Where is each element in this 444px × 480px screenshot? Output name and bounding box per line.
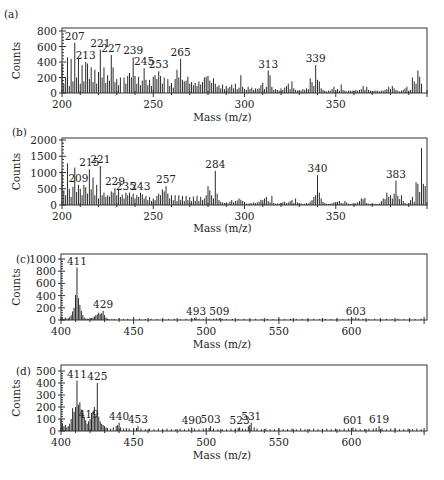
peak-label: 383 [386,168,406,180]
spectrum-panel-b: 2092152212292352432572843403830500100015… [10,126,427,234]
peak-label: 601 [343,414,363,426]
x-tick-label: 200 [52,210,72,222]
peak-label: 339 [306,52,326,64]
y-axis-title: Counts [10,153,22,191]
x-tick-label: 400 [51,325,71,337]
peak-label: 265 [171,46,191,58]
spectrum-panel-c: 4114294935096030200400600800100040045050… [10,253,427,350]
plot-frame [61,254,427,320]
peak-label: 213 [76,49,96,61]
y-tick-label: 200 [37,72,57,84]
x-tick-label: 250 [143,98,163,110]
peak-label: 490 [182,414,202,426]
y-tick-label: 100 [36,413,56,425]
x-tick-label: 600 [341,436,361,448]
spectrum-panel-d: 4114194254404534905035235316016190100200… [10,365,427,461]
y-tick-label: 400 [36,290,56,302]
peak-label: 453 [128,413,148,425]
y-tick-label: 600 [36,277,56,289]
x-axis-title: Mass (m/z) [193,222,251,234]
peak-label: 493 [186,305,206,317]
plot-frame [62,138,427,205]
peak-label: 411 [67,368,87,380]
peak-label: 429 [93,298,113,310]
panel-label: (c) [16,253,30,265]
y-tick-label: 400 [37,56,57,68]
x-tick-label: 500 [196,325,216,337]
peak-label: 221 [90,153,110,165]
x-axis-title: Mass (m/z) [193,111,251,123]
y-tick-label: 2000 [30,134,57,146]
peak-label: 257 [156,173,176,185]
x-tick-label: 350 [326,98,346,110]
x-tick-label: 300 [234,98,254,110]
peak-label: 411 [67,255,87,267]
x-tick-label: 400 [51,436,71,448]
mass-spectra-figure: 2072132212272392452532653133390200400600… [0,0,444,480]
x-tick-label: 200 [52,98,72,110]
panel-label: (a) [4,8,18,20]
peak-label: 284 [205,158,225,170]
peak-label: 227 [101,42,121,54]
peak-label: 619 [369,413,389,425]
y-tick-label: 500 [37,183,57,195]
panel-label: (b) [12,126,27,138]
y-tick-label: 300 [36,389,56,401]
x-axis-title: Mass (m/z) [193,449,251,461]
y-tick-label: 400 [36,377,56,389]
peak-label: 253 [149,58,169,70]
y-tick-label: 500 [36,365,56,377]
x-tick-label: 250 [143,210,163,222]
peak-label: 509 [209,305,229,317]
y-tick-label: 200 [36,401,56,413]
peak-label: 425 [87,370,107,382]
y-tick-label: 800 [37,25,57,37]
peak-label: 440 [109,410,129,422]
x-tick-label: 550 [269,325,289,337]
x-tick-label: 350 [326,210,346,222]
x-tick-label: 500 [196,436,216,448]
peak-label: 603 [346,305,366,317]
x-tick-label: 550 [269,436,289,448]
x-tick-label: 300 [234,210,254,222]
y-tick-label: 800 [36,265,56,277]
y-tick-label: 600 [37,41,57,53]
y-axis-title: Counts [10,42,22,80]
peak-label: 419 [79,408,99,420]
y-tick-label: 200 [36,302,56,314]
x-tick-label: 450 [124,436,144,448]
peak-label: 207 [65,30,85,42]
panel-label: (d) [16,365,31,377]
peak-label: 503 [201,413,221,425]
x-tick-label: 600 [341,325,361,337]
x-axis-title: Mass (m/z) [193,338,251,350]
peak-label: 243 [130,180,150,192]
y-tick-label: 1000 [29,253,56,265]
peak-label: 340 [307,162,327,174]
y-tick-label: 1500 [30,150,57,162]
y-axis-title: Counts [10,379,22,417]
peak-label: 209 [68,172,88,184]
spectrum-panel-a: 2072132212272392452532653133390200400600… [4,8,427,123]
y-axis-title: Counts [10,268,22,306]
x-tick-label: 450 [124,325,144,337]
peak-label: 313 [258,58,278,70]
y-tick-label: 1000 [30,167,57,179]
peak-label: 531 [241,410,261,422]
